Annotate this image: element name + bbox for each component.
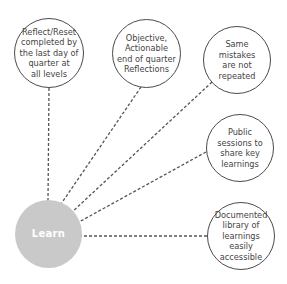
hub-label: Learn [30,229,67,240]
node-label: Documented library of learnings easily a… [208,210,274,263]
node-public-sessions: Public sessions to share key learnings [206,114,274,182]
node-label: Objective, Actionable end of quarter Ref… [115,33,178,75]
node-documented-library: Documented library of learnings easily a… [207,202,275,270]
connector-reflect-reset [48,88,49,201]
node-label: Reflect/Reset completed by the last day … [18,27,81,80]
connector-public-sessions [79,152,206,222]
node-label: Same mistakes are not repeated [204,39,270,81]
node-reflect-reset: Reflect/Reset completed by the last day … [14,18,84,88]
node-objective-reflections: Objective, Actionable end of quarter Ref… [112,19,181,88]
connector-objective-reflections [61,87,141,204]
hub-learn: Learn [15,200,82,268]
node-same-mistakes: Same mistakes are not repeated [203,26,271,94]
node-label: Public sessions to share key learnings [215,127,264,169]
connector-same-mistakes [71,82,212,213]
